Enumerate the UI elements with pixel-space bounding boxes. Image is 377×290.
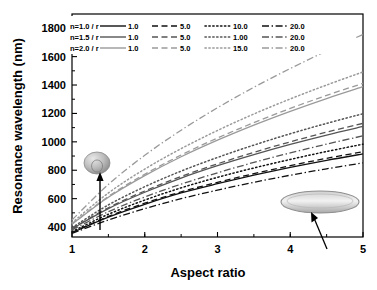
legend: n=1.0 / r1.05.010.020.0n=1.5 / r1.05.01.… <box>66 16 356 54</box>
x-tick-label: 3 <box>214 243 220 255</box>
y-axis-title: Resonance wavelength (nm) <box>10 38 25 214</box>
y-tick-label: 1200 <box>42 107 66 119</box>
legend-entry-label: 5.0 <box>180 33 190 42</box>
legend-entry-label: 1.0 <box>128 33 138 42</box>
y-tick-label: 600 <box>48 193 66 205</box>
legend-entry-label: 20.0 <box>290 22 305 31</box>
y-tick-label: 1400 <box>42 79 66 91</box>
legend-entry-label: 1.0 <box>128 22 138 31</box>
resonance-wavelength-figure: 40060080010001200140016001800 12345 Aspe… <box>0 0 377 290</box>
y-tick-label: 1000 <box>42 136 66 148</box>
legend-entry-label: 20.0 <box>290 44 305 53</box>
legend-entry-label: 5.0 <box>180 22 190 31</box>
legend-entry-label: 1.0 <box>128 44 138 53</box>
legend-group-label: n=2.0 / r <box>70 44 99 53</box>
x-tick-label: 2 <box>142 243 148 255</box>
sphere-icon <box>84 152 110 174</box>
y-tick-label: 1600 <box>42 51 66 63</box>
legend-group-label: n=1.0 / r <box>70 22 99 31</box>
x-tick-label: 5 <box>360 243 366 255</box>
legend-entry-label: 1.00 <box>233 33 248 42</box>
y-tick-label: 800 <box>48 164 66 176</box>
y-tick-label: 1800 <box>42 22 66 34</box>
y-tick-label: 400 <box>48 221 66 233</box>
x-axis-title: Aspect ratio <box>170 265 245 280</box>
x-tick-label: 1 <box>69 243 75 255</box>
legend-group-label: n=1.5 / r <box>70 33 99 42</box>
chart-canvas: 40060080010001200140016001800 12345 Aspe… <box>0 0 377 290</box>
legend-entry-label: 5.0 <box>180 44 190 53</box>
legend-entry-label: 20.0 <box>290 33 305 42</box>
x-tick-label: 4 <box>287 243 294 255</box>
legend-entry-label: 10.0 <box>233 22 248 31</box>
legend-entry-label: 15.0 <box>233 44 248 53</box>
